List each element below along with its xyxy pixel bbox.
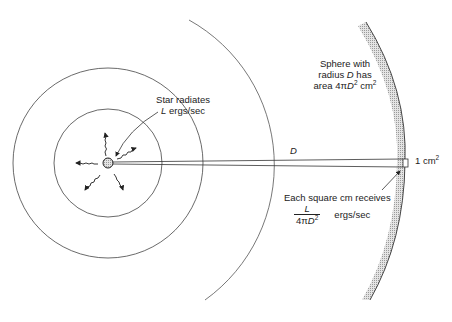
sphere-area-unit: cm	[358, 80, 373, 91]
unit-area-label: 1 cm2	[415, 155, 439, 166]
sphere-label: Sphere with radius D has area 4πD2 cm2	[305, 58, 385, 91]
sphere-area-pre: area 4π	[314, 80, 348, 91]
arrow-up-icon	[105, 133, 107, 156]
arrow-left-icon	[76, 163, 98, 164]
sphere-area-unit-exp: 2	[373, 79, 377, 86]
sphere-label-line1: Sphere with	[320, 58, 370, 69]
unit-area-text: 1 cm	[415, 155, 436, 166]
star-leader-line	[116, 112, 158, 156]
diagram-canvas	[0, 0, 452, 322]
unit-area-exp: 2	[436, 154, 440, 161]
receive-label: Each square cm receives L 4πD2 ergs/sec	[284, 192, 391, 226]
arrow-downright-icon	[114, 174, 123, 190]
arrow-upright-icon	[117, 148, 136, 159]
star-icon	[103, 158, 113, 168]
distance-label: D	[290, 145, 297, 156]
sphere-area-var: D	[347, 80, 354, 91]
flux-den-exp: 2	[315, 214, 319, 221]
star-label-unit: ergs/sec	[166, 105, 205, 116]
flux-fraction: L 4πD2	[294, 203, 320, 226]
sphere-label-var: D	[347, 69, 354, 80]
sphere-label-pre: radius	[318, 69, 347, 80]
distance-line-bottom	[112, 164, 403, 167]
arrow-downleft-icon	[85, 175, 100, 190]
star-label-line1: Star radiates	[156, 94, 210, 105]
flux-den-pre: 4π	[296, 215, 308, 226]
distance-line-top	[112, 159, 403, 162]
flux-den-var: D	[308, 215, 315, 226]
unit-area-patch	[403, 159, 408, 167]
outer-sphere-arc	[189, 20, 274, 300]
flux-unit: ergs/sec	[334, 209, 370, 220]
star-label: Star radiates L ergs/sec	[148, 94, 218, 116]
receive-label-line1: Each square cm receives	[284, 192, 391, 203]
